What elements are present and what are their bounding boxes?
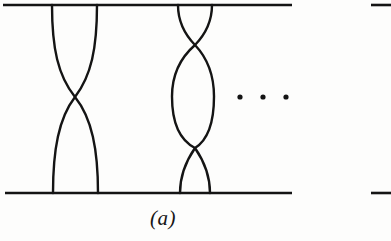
ellipsis-dot-1 (237, 94, 242, 99)
left-braid-strand-a (52, 5, 98, 193)
right-braid-strand-a (172, 5, 195, 193)
figure-caption: (a) (133, 206, 193, 231)
left-braid (52, 5, 98, 193)
horizontal-ellipsis (237, 94, 288, 99)
right-braid-strand-b (195, 5, 214, 193)
ellipsis-dot-2 (260, 94, 265, 99)
braid-diagram-canvas (0, 0, 391, 241)
ellipsis-dot-3 (283, 94, 288, 99)
left-braid-strand-b (53, 5, 97, 193)
right-braid (172, 5, 214, 193)
braid-figure: (a) (0, 0, 391, 241)
